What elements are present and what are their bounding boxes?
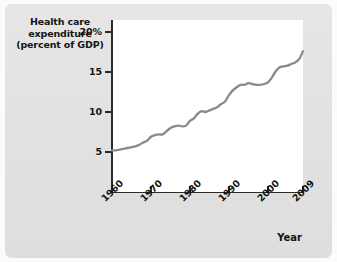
- x-axis-title: Year: [230, 232, 302, 243]
- data-series-line: [112, 51, 303, 150]
- data-line-layer: [0, 0, 337, 262]
- chart-screenshot: Health care expenditure (percent of GDP)…: [0, 0, 337, 262]
